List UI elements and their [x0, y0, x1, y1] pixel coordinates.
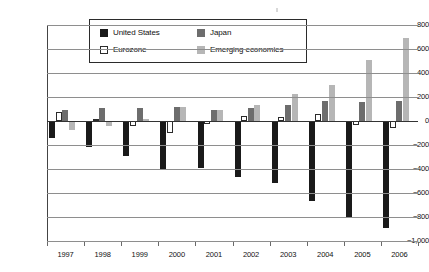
bar-eurozone-1997 [56, 112, 62, 121]
legend-label-japan: Japan [210, 28, 231, 37]
bar-emerging-1997 [69, 121, 75, 130]
bar-us-1998 [86, 121, 92, 147]
x-tick-2000 [158, 242, 159, 246]
gridline--200 [47, 145, 418, 146]
x-tick-label-2002: 2002 [231, 250, 271, 259]
gridline--400 [47, 169, 418, 170]
x-tick-2006 [381, 242, 382, 246]
gridline--800 [47, 217, 418, 218]
bar-japan-2002 [248, 108, 254, 121]
legend-row-1: United States Japan [100, 24, 306, 41]
x-tick-2004 [307, 242, 308, 246]
bar-us-2006 [383, 121, 389, 228]
x-tick-1998 [84, 242, 85, 246]
x-tick-label-1997: 1997 [46, 250, 86, 259]
x-tick-2003 [270, 242, 271, 246]
bar-us-2003 [272, 121, 278, 183]
legend-item-united-states: United States [100, 28, 197, 37]
bar-us-1997 [49, 121, 55, 138]
gridline-400 [47, 73, 418, 74]
x-tick-label-2005: 2005 [342, 250, 382, 259]
x-tick-label-2000: 2000 [157, 250, 197, 259]
bar-eurozone-2000 [167, 121, 173, 133]
bar-emerging-2004 [329, 85, 335, 121]
x-tick-label-2004: 2004 [305, 250, 345, 259]
bar-japan-2000 [174, 107, 180, 121]
bar-japan-1997 [62, 110, 68, 121]
x-tick-label-2003: 2003 [268, 250, 308, 259]
current-account-balance-bar-chart: 8006004002000−200−400−600−800−1,000 1997… [0, 0, 429, 272]
bar-japan-1998 [99, 108, 105, 121]
bar-us-2004 [309, 121, 315, 201]
stray-mark [276, 8, 278, 12]
gridline-0 [47, 121, 418, 122]
bar-us-1999 [123, 121, 129, 156]
gridline--1000 [47, 241, 418, 242]
x-tick-label-2006: 2006 [379, 250, 419, 259]
bar-japan-1999 [137, 108, 143, 121]
x-tick-1999 [121, 242, 122, 246]
bar-japan-2004 [322, 101, 328, 121]
bar-japan-2005 [359, 102, 365, 121]
gridline--600 [47, 193, 418, 194]
legend-label-united-states: United States [113, 28, 160, 37]
bar-emerging-2003 [292, 94, 298, 121]
x-tick-label-1999: 1999 [120, 250, 160, 259]
legend-item-japan: Japan [197, 28, 231, 37]
bar-japan-2006 [396, 101, 402, 121]
x-tick-end [418, 242, 419, 246]
bar-japan-2001 [211, 110, 217, 121]
x-tick-2002 [233, 242, 234, 246]
bar-eurozone-2004 [315, 114, 321, 121]
legend-swatch-united-states-icon [100, 29, 108, 37]
bar-emerging-2005 [366, 60, 372, 121]
bar-emerging-2002 [254, 105, 260, 121]
gridline-800 [47, 25, 418, 26]
x-tick-2005 [344, 242, 345, 246]
gridline-200 [47, 97, 418, 98]
bar-japan-2003 [285, 105, 291, 121]
x-tick-1997 [47, 242, 48, 246]
bar-emerging-2001 [217, 110, 223, 121]
x-tick-label-1998: 1998 [83, 250, 123, 259]
bar-emerging-2006 [403, 38, 409, 121]
bar-emerging-2000 [180, 107, 186, 121]
x-tick-2001 [195, 242, 196, 246]
legend-swatch-japan-icon [197, 29, 205, 37]
gridline-600 [47, 49, 418, 50]
x-tick-label-2001: 2001 [194, 250, 234, 259]
